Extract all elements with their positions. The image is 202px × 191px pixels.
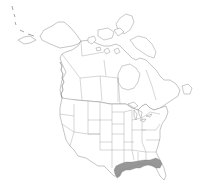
alaska (18, 22, 81, 48)
newfoundland (182, 84, 192, 94)
north-america-map (0, 0, 202, 191)
victoria-island (98, 28, 114, 40)
aleutian-islands (12, 6, 34, 36)
united-states (60, 98, 168, 180)
baffin-island (130, 36, 156, 58)
